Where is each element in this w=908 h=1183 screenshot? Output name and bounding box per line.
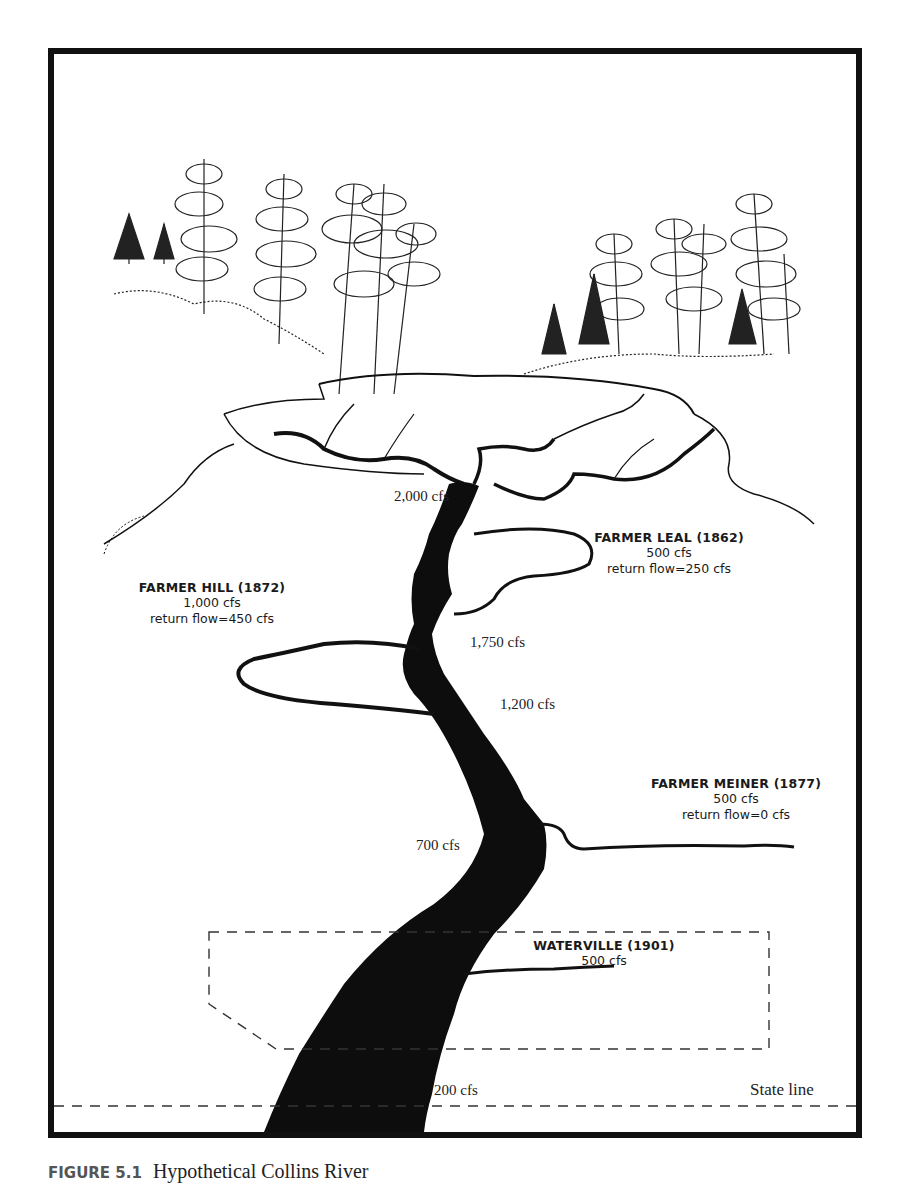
- tree-icon: [154, 224, 174, 264]
- farmer-meiner-diversion: 500 cfs: [636, 791, 836, 807]
- farmer-meiner-name: FARMER MEINER (1877): [636, 776, 836, 791]
- flow-label-200: 200 cfs: [434, 1082, 478, 1099]
- forest-illustration: [114, 159, 800, 394]
- farmer-meiner-ditch: [539, 824, 794, 849]
- waterville-name: WATERVILLE (1901): [524, 938, 684, 953]
- flow-label-700: 700 cfs: [416, 837, 460, 854]
- waterville-label: WATERVILLE (1901) 500 cfs: [524, 938, 684, 969]
- waterville-diversion: 500 cfs: [524, 953, 684, 969]
- tree-icon: [254, 174, 316, 344]
- tree-icon: [729, 194, 800, 354]
- farmer-leal-return-flow: return flow=250 cfs: [549, 561, 789, 577]
- figure-number: FIGURE 5.1: [48, 1164, 142, 1182]
- farmer-meiner-label: FARMER MEINER (1877) 500 cfs return flow…: [636, 776, 836, 823]
- tree-icon: [542, 304, 566, 354]
- flow-label-1750: 1,750 cfs: [470, 634, 525, 651]
- farmer-hill-name: FARMER HILL (1872): [112, 580, 312, 595]
- state-line-label: State line: [750, 1080, 814, 1100]
- diagram-frame: FARMER LEAL (1862) 500 cfs return flow=2…: [48, 48, 862, 1138]
- figure-caption: FIGURE 5.1 Hypothetical Collins River: [48, 1160, 368, 1183]
- flow-label-1200: 1,200 cfs: [500, 696, 555, 713]
- tree-icon: [322, 184, 440, 394]
- figure-title: Hypothetical Collins River: [153, 1160, 369, 1182]
- farmer-meiner-return-flow: return flow=0 cfs: [636, 807, 836, 823]
- farmer-hill-diversion: 1,000 cfs: [112, 595, 312, 611]
- farmer-leal-name: FARMER LEAL (1862): [549, 530, 789, 545]
- farmer-hill-label: FARMER HILL (1872) 1,000 cfs return flow…: [112, 580, 312, 627]
- flow-label-2000: 2,000 cfs: [394, 488, 449, 505]
- farmer-leal-diversion: 500 cfs: [549, 545, 789, 561]
- farmer-leal-label: FARMER LEAL (1862) 500 cfs return flow=2…: [549, 530, 789, 577]
- waterville-boundary: [209, 932, 769, 1049]
- farmer-hill-return-flow: return flow=450 cfs: [112, 611, 312, 627]
- tree-icon: [651, 219, 726, 354]
- tree-icon: [114, 214, 144, 264]
- tree-icon: [175, 159, 237, 314]
